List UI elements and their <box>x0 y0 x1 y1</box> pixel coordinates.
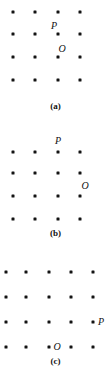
lattice-dot <box>25 346 28 349</box>
lattice-dot <box>34 151 37 154</box>
lattice-dot <box>79 172 82 175</box>
lattice-dot <box>5 296 8 299</box>
lattice-dot <box>79 33 82 36</box>
lattice-dot <box>34 56 37 59</box>
lattice-dot <box>57 172 60 175</box>
lattice-dot <box>70 296 73 299</box>
lattice-dot <box>79 151 82 154</box>
panel-caption-a: (a) <box>0 101 111 111</box>
panel-caption-b: (b) <box>0 228 111 238</box>
point-label-o: O <box>81 181 88 191</box>
lattice-dot <box>34 195 37 198</box>
lattice-dot <box>34 172 37 175</box>
lattice-dot <box>12 172 15 175</box>
lattice-dot <box>12 79 15 82</box>
point-label-p: P <box>55 136 61 146</box>
lattice-dot <box>48 346 51 349</box>
panel-b: PO (b) <box>0 130 111 250</box>
lattice-dot <box>79 56 82 59</box>
lattice-dot <box>57 195 60 198</box>
panel-caption-c: (c) <box>0 356 111 366</box>
lattice-dot <box>57 151 60 154</box>
lattice-dot <box>57 79 60 82</box>
lattice-dot <box>34 79 37 82</box>
point-label-p: P <box>98 317 104 327</box>
panel-c: PO (c) <box>0 258 111 372</box>
lattice-dot <box>70 271 73 274</box>
lattice-dot <box>57 218 60 221</box>
lattice-dot <box>92 321 95 324</box>
lattice-dot <box>92 296 95 299</box>
lattice-dot <box>48 296 51 299</box>
lattice-dot <box>79 218 82 221</box>
lattice-dot <box>12 218 15 221</box>
lattice-dot <box>48 271 51 274</box>
lattice-figure: PO (a) PO (b) PO (c) <box>0 0 111 372</box>
lattice-dot <box>57 56 60 59</box>
lattice-dot <box>25 271 28 274</box>
lattice-dot <box>5 346 8 349</box>
lattice-dot <box>57 33 60 36</box>
lattice-dot <box>70 346 73 349</box>
lattice-dot <box>5 271 8 274</box>
lattice-dot <box>92 271 95 274</box>
lattice-dot <box>70 321 73 324</box>
point-label-o: O <box>58 44 65 54</box>
lattice-dot <box>79 195 82 198</box>
lattice-dot <box>34 33 37 36</box>
lattice-dot <box>25 296 28 299</box>
lattice-dot <box>34 218 37 221</box>
panel-a: PO (a) <box>0 0 111 124</box>
point-label-p: P <box>51 21 57 31</box>
lattice-dot <box>57 11 60 14</box>
lattice-dot <box>92 346 95 349</box>
lattice-dot <box>34 11 37 14</box>
lattice-dot <box>25 321 28 324</box>
lattice-dot <box>12 33 15 36</box>
lattice-dot <box>5 321 8 324</box>
lattice-dot <box>12 151 15 154</box>
dot-lattice-c: PO <box>0 258 111 372</box>
lattice-dot <box>48 321 51 324</box>
lattice-dot <box>12 195 15 198</box>
lattice-dot <box>12 56 15 59</box>
lattice-dot <box>12 11 15 14</box>
lattice-dot <box>79 11 82 14</box>
point-label-o: O <box>53 342 60 352</box>
lattice-dot <box>79 79 82 82</box>
